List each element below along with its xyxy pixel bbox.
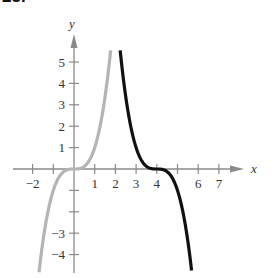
x-tick-label: 2 — [112, 176, 119, 191]
curve-shifted-reflected-cubic — [120, 50, 191, 270]
tick-labels: −2123467−4−312345xy — [26, 16, 257, 262]
y-tick-label: 4 — [59, 76, 66, 91]
y-tick-label: 5 — [59, 55, 66, 70]
x-axis-arrow-icon — [230, 166, 244, 173]
x-tick-label: 6 — [195, 176, 202, 191]
y-axis-arrow-icon — [71, 34, 78, 48]
x-axis-label: x — [250, 161, 257, 176]
y-tick-label: 2 — [59, 119, 66, 134]
axes — [13, 34, 244, 273]
y-tick-label: −3 — [51, 226, 65, 241]
y-axis-label: y — [67, 16, 75, 31]
x-tick-label: 7 — [216, 176, 223, 191]
cubic-graph: −2123467−4−312345xy — [0, 0, 279, 278]
x-tick-label: 1 — [91, 176, 98, 191]
y-tick-label: 1 — [59, 140, 66, 155]
y-tick-label: 3 — [59, 97, 66, 112]
x-tick-label: 3 — [133, 176, 140, 191]
x-tick-label: −2 — [26, 176, 40, 191]
y-tick-label: −4 — [51, 247, 65, 262]
x-tick-label: 4 — [154, 176, 161, 191]
